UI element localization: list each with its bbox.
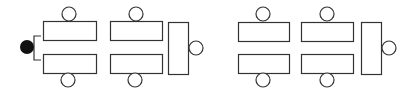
table <box>362 23 382 75</box>
seat <box>129 7 143 21</box>
seat <box>320 7 334 21</box>
seat <box>189 41 203 55</box>
table <box>169 23 189 75</box>
seat <box>256 7 270 21</box>
table <box>239 23 290 42</box>
table <box>239 55 290 74</box>
table <box>111 55 163 74</box>
bracket <box>34 36 41 60</box>
table <box>44 22 97 41</box>
table <box>302 23 354 42</box>
seat <box>382 41 396 55</box>
seat <box>61 73 75 87</box>
seating-diagram <box>0 0 416 96</box>
seat <box>62 7 76 21</box>
seat <box>320 73 334 87</box>
right-group <box>239 7 397 87</box>
table <box>302 55 354 74</box>
left-group <box>44 7 204 87</box>
seat <box>256 73 270 87</box>
seat <box>128 73 142 87</box>
presenter-seat <box>20 40 34 54</box>
table <box>44 55 97 74</box>
table <box>111 22 163 41</box>
